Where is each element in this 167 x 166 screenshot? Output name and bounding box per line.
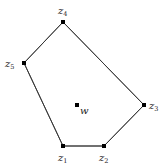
label-z2: z2	[98, 152, 108, 165]
label-z5: z5	[4, 58, 14, 71]
vertex-w	[75, 103, 79, 107]
vertex-z3	[142, 103, 146, 107]
label-w: w	[80, 105, 89, 116]
edge-z5-z1	[24, 63, 63, 146]
label-z4: z4	[57, 5, 67, 18]
label-z1: z1	[57, 152, 67, 165]
edge-z2-z3	[104, 105, 144, 146]
convex-polygon-diagram: z1z2z3z4z5w	[0, 0, 167, 166]
edge-z4-z5	[24, 22, 63, 63]
vertex-z4	[61, 20, 65, 24]
edge-z3-z4	[63, 22, 144, 105]
vertex-z1	[61, 144, 65, 148]
label-z3: z3	[148, 100, 158, 113]
polygon-outline	[24, 22, 144, 146]
vertex-z2	[102, 144, 106, 148]
vertex-z5	[22, 61, 26, 65]
